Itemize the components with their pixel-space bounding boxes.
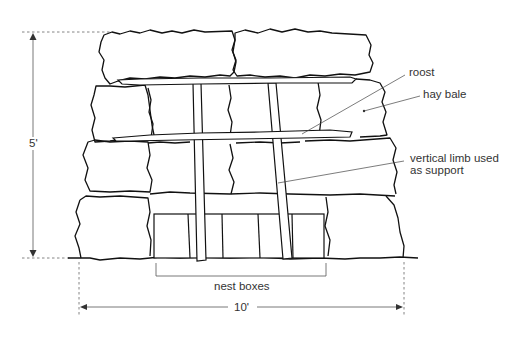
width-dimension-label: 10'	[234, 301, 249, 314]
nest-boxes-bracket	[156, 263, 326, 276]
height-dimension-label: 5'	[29, 137, 38, 150]
nest-boxes-label: nest boxes	[214, 280, 270, 293]
upper-roost	[118, 77, 356, 85]
vertical-limb-leader	[278, 161, 404, 183]
roost-label: roost	[409, 66, 435, 79]
hay-bale	[99, 30, 236, 84]
hay-bale-leader	[364, 96, 420, 111]
nest-boxes	[154, 214, 324, 258]
vertical-limb-label-line2: as support	[410, 164, 464, 177]
hay-bale	[232, 29, 373, 78]
hay-bale-label: hay bale	[423, 88, 466, 101]
lower-roost	[113, 130, 352, 141]
third-bale-row	[83, 138, 397, 196]
top-bale-row	[99, 29, 373, 84]
